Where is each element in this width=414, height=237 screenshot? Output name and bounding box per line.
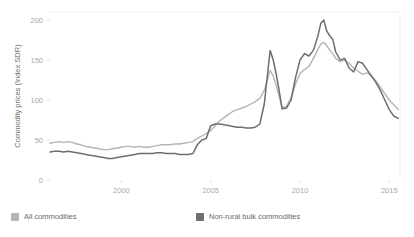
y-tick-label: 150: [30, 56, 43, 65]
legend-swatch-light: [11, 213, 19, 221]
series-line-non-rural-bulk-commodities: [50, 20, 398, 158]
y-tick-label: 0: [39, 176, 43, 185]
x-tick-label: 2005: [202, 186, 219, 195]
series-line-all-commodities: [50, 42, 398, 149]
legend-swatch-dark: [196, 213, 204, 221]
y-tick-label: 50: [35, 136, 43, 145]
y-tick-label: 100: [30, 96, 43, 105]
x-axis-ticks: 2000200520102015: [113, 180, 398, 195]
y-axis-title-text: Commodity prices (Index SDR): [13, 44, 22, 148]
plot-frame: [50, 12, 400, 180]
x-tick-label: 2000: [113, 186, 130, 195]
x-tick-label: 2010: [292, 186, 309, 195]
y-axis-title: Commodity prices (Index SDR): [13, 44, 22, 148]
series-lines: [50, 20, 398, 158]
legend-item-all-commodities[interactable]: All commodities: [11, 212, 77, 221]
x-tick-label: 2015: [381, 186, 398, 195]
legend-item-non-rural-bulk-commodities[interactable]: Non-rural bulk commodities: [196, 212, 300, 221]
legend-label-non-rural-bulk-commodities: Non-rural bulk commodities: [209, 212, 300, 221]
y-tick-label: 200: [30, 16, 43, 25]
legend-label-all-commodities: All commodities: [24, 212, 77, 221]
plot-area-border: [50, 12, 400, 180]
chart-canvas: 050100150200 2000200520102015 Commodity …: [0, 0, 414, 208]
chart-legend: All commodities Non-rural bulk commoditi…: [0, 208, 414, 237]
y-axis-ticks: 050100150200: [30, 16, 50, 185]
commodity-prices-chart: 050100150200 2000200520102015 Commodity …: [0, 0, 414, 237]
